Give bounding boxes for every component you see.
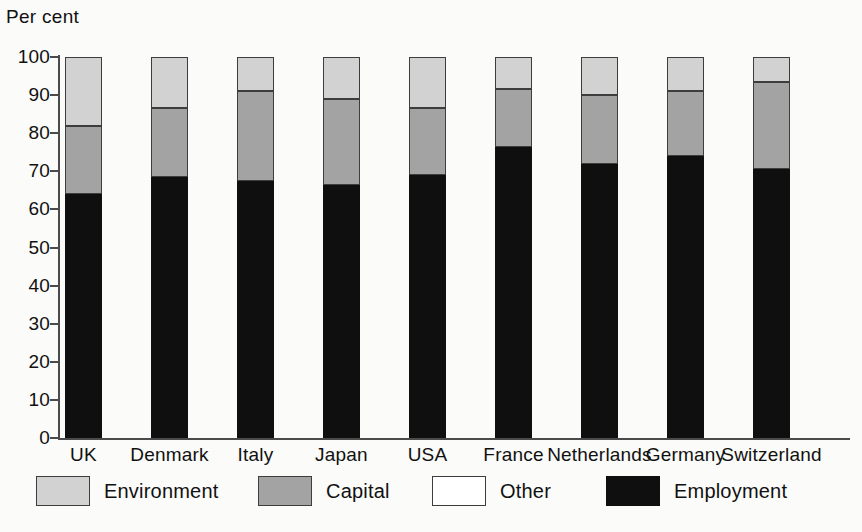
bar-segment-employment[interactable] — [151, 177, 188, 438]
bar-segment-employment[interactable] — [237, 181, 274, 438]
bar-segment-capital[interactable] — [151, 108, 188, 177]
y-axis-tick — [50, 132, 59, 134]
y-axis-tick — [50, 361, 59, 363]
y-axis-tick-label-wrap: 30 — [0, 314, 50, 333]
bar-france[interactable] — [495, 57, 532, 438]
bar-segment-environment[interactable] — [753, 57, 790, 82]
y-axis-tick — [50, 437, 59, 439]
bar-uk[interactable] — [65, 57, 102, 438]
bar-segment-capital[interactable] — [237, 91, 274, 181]
y-axis-tick — [50, 94, 59, 96]
legend-label-capital: Capital — [326, 481, 390, 501]
plot-area — [60, 57, 850, 438]
y-axis-tick-label: 20 — [4, 352, 50, 371]
y-axis-tick-label: 50 — [4, 238, 50, 257]
y-axis-tick-label: 90 — [4, 85, 50, 104]
bar-segment-capital[interactable] — [323, 99, 360, 185]
bar-usa[interactable] — [409, 57, 446, 438]
bar-segment-environment[interactable] — [237, 57, 274, 91]
legend-swatch-other — [432, 476, 486, 506]
y-axis-tick-label: 100 — [4, 47, 50, 66]
y-axis-tick — [50, 170, 59, 172]
y-axis-tick — [50, 285, 59, 287]
bar-segment-employment[interactable] — [323, 185, 360, 438]
bar-segment-capital[interactable] — [65, 126, 102, 195]
y-axis-tick-label-wrap: 100 — [0, 47, 50, 66]
legend-label-other: Other — [500, 481, 551, 501]
bar-segment-environment[interactable] — [151, 57, 188, 108]
y-axis-tick-label-wrap: 80 — [0, 123, 50, 142]
bar-segment-employment[interactable] — [581, 164, 618, 438]
y-axis-tick-label-wrap: 50 — [0, 238, 50, 257]
bar-segment-capital[interactable] — [581, 95, 618, 164]
y-axis-tick-label: 70 — [4, 161, 50, 180]
y-axis-tick — [50, 323, 59, 325]
bar-segment-capital[interactable] — [495, 89, 532, 146]
bar-segment-employment[interactable] — [65, 194, 102, 438]
bar-segment-environment[interactable] — [65, 57, 102, 126]
bar-segment-capital[interactable] — [753, 82, 790, 170]
legend-item-other[interactable]: Other — [432, 474, 551, 508]
bar-segment-employment[interactable] — [753, 169, 790, 438]
bar-segment-environment[interactable] — [581, 57, 618, 95]
y-axis-tick — [50, 56, 59, 58]
bar-denmark[interactable] — [151, 57, 188, 438]
bar-italy[interactable] — [237, 57, 274, 438]
y-axis-tick-label-wrap: 90 — [0, 85, 50, 104]
bar-segment-employment[interactable] — [667, 156, 704, 438]
y-axis-tick-label-wrap: 70 — [0, 161, 50, 180]
bar-segment-employment[interactable] — [495, 147, 532, 438]
y-axis-tick-label-wrap: 20 — [0, 352, 50, 371]
bar-segment-environment[interactable] — [667, 57, 704, 91]
bar-segment-environment[interactable] — [323, 57, 360, 99]
legend-item-capital[interactable]: Capital — [258, 474, 390, 508]
stacked-bar-chart: Per cent 0102030405060708090100 UKDenmar… — [0, 0, 862, 532]
y-axis-tick — [50, 247, 59, 249]
bar-netherlands[interactable] — [581, 57, 618, 438]
bar-germany[interactable] — [667, 57, 704, 438]
chart-legend: EnvironmentCapitalOtherEmployment — [36, 474, 846, 514]
y-axis-tick-label-wrap: 40 — [0, 276, 50, 295]
y-axis-title: Per cent — [6, 6, 79, 28]
y-axis-tick — [50, 208, 59, 210]
legend-swatch-capital — [258, 476, 312, 506]
y-axis-tick-label: 40 — [4, 276, 50, 295]
legend-item-employment[interactable]: Employment — [606, 474, 787, 508]
bar-japan[interactable] — [323, 57, 360, 438]
legend-item-environment[interactable]: Environment — [36, 474, 218, 508]
x-axis-label-switzerland: Switzerland — [692, 444, 852, 465]
legend-label-environment: Environment — [104, 481, 218, 501]
bar-segment-capital[interactable] — [409, 108, 446, 175]
bar-segment-environment[interactable] — [409, 57, 446, 108]
bar-segment-employment[interactable] — [409, 175, 446, 438]
legend-swatch-employment — [606, 476, 660, 506]
legend-label-employment: Employment — [674, 481, 787, 501]
y-axis-tick-label-wrap: 10 — [0, 390, 50, 409]
y-axis-tick-label: 10 — [4, 390, 50, 409]
y-axis-tick — [50, 399, 59, 401]
legend-swatch-environment — [36, 476, 90, 506]
y-axis-tick-label-wrap: 60 — [0, 199, 50, 218]
bar-segment-environment[interactable] — [495, 57, 532, 89]
y-axis-tick-label: 80 — [4, 123, 50, 142]
y-axis-tick-label: 30 — [4, 314, 50, 333]
x-axis-line — [58, 438, 850, 440]
bar-segment-capital[interactable] — [667, 91, 704, 156]
bar-switzerland[interactable] — [753, 57, 790, 438]
y-axis-tick-label: 60 — [4, 199, 50, 218]
